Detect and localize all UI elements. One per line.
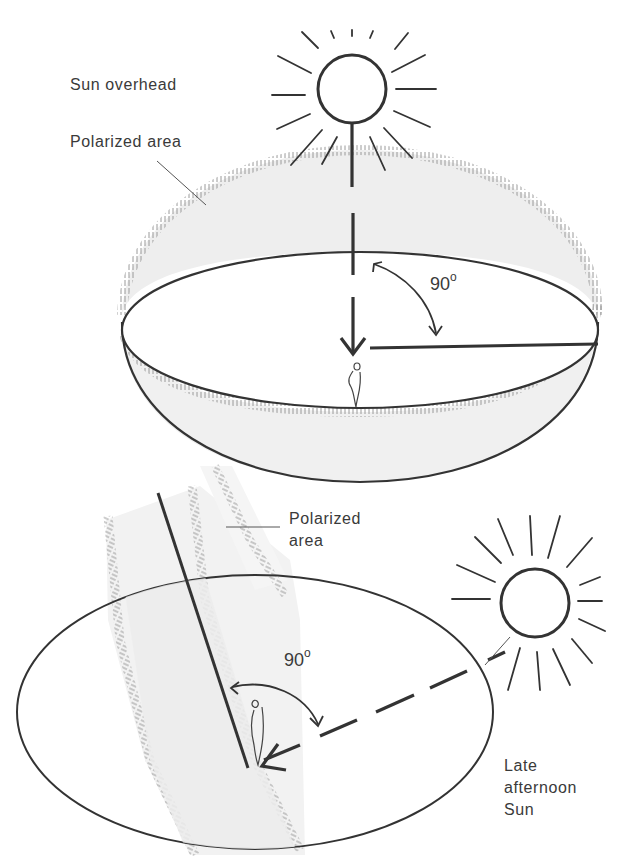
angle-value: 90	[430, 274, 450, 294]
late-afternoon-line1: Late	[504, 755, 577, 777]
bottom-angle-label: 90o	[284, 645, 311, 670]
degree-symbol: o	[304, 646, 311, 660]
bottom-polarized-area-label: Polarized area	[289, 508, 361, 552]
top-polarized-pointer	[157, 161, 206, 205]
bottom-polarized-line1: Polarized	[289, 508, 361, 530]
late-afternoon-line2: afternoon	[504, 777, 577, 799]
top-panel	[122, 30, 598, 482]
polarization-diagram	[0, 0, 629, 867]
bottom-sun-pointer	[485, 637, 510, 665]
angle-value: 90	[284, 650, 304, 670]
bottom-polarized-line2: area	[289, 530, 361, 552]
late-afternoon-sun-label: Late afternoon Sun	[504, 755, 577, 821]
late-afternoon-line3: Sun	[504, 799, 577, 821]
degree-symbol: o	[450, 270, 457, 284]
sun-overhead-label: Sun overhead	[70, 75, 177, 95]
sun-icon	[452, 516, 605, 690]
top-angle-label: 90o	[430, 269, 457, 294]
top-polarized-area-label: Polarized area	[70, 132, 182, 152]
